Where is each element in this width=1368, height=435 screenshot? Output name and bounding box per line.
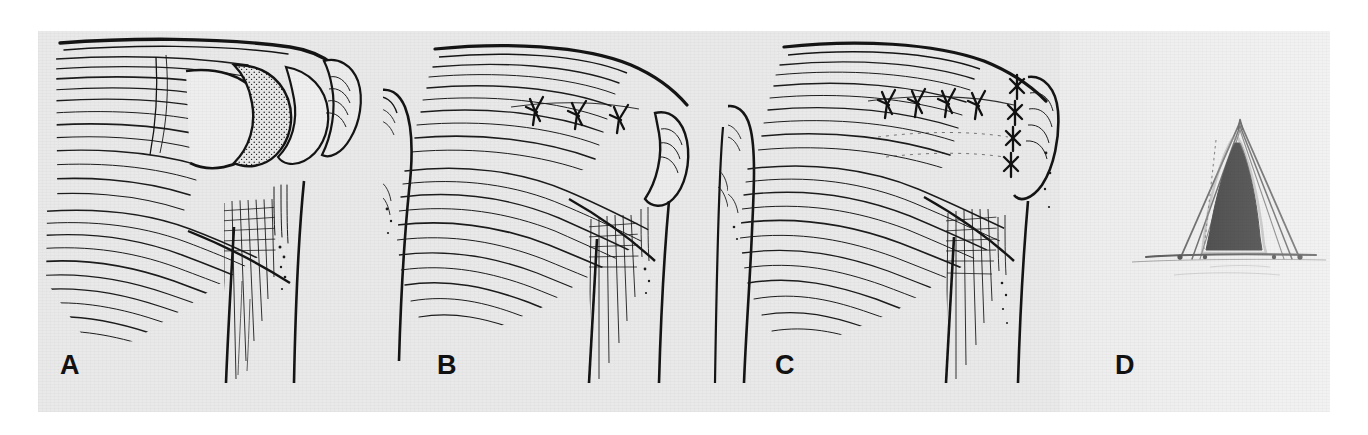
- suture-knot: [878, 90, 895, 118]
- panel-a: [38, 31, 383, 412]
- suture-knot: [1006, 127, 1020, 151]
- panel-b-drawing: [383, 31, 728, 412]
- suture-knot: [938, 89, 955, 117]
- suture-knot: [1010, 75, 1024, 99]
- panel-label-c: C: [775, 352, 795, 379]
- suture-knot: [968, 91, 985, 119]
- panel-a-drawing: [38, 31, 383, 412]
- suture-knot: [610, 105, 628, 133]
- panel-label-b: B: [437, 352, 457, 379]
- panel-label-a: A: [60, 352, 80, 379]
- panel-label-d: D: [1115, 352, 1135, 379]
- illustration-plate: A B C D: [38, 31, 1330, 412]
- figure-root: A B C D: [0, 0, 1368, 435]
- suture-knot: [1004, 153, 1018, 177]
- panel-b: [383, 31, 728, 412]
